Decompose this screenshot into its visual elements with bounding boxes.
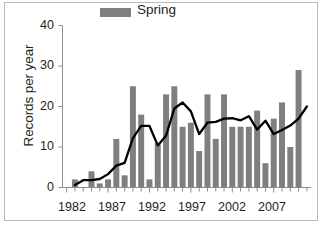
bar bbox=[238, 127, 244, 188]
bar bbox=[180, 127, 186, 188]
bar bbox=[229, 127, 235, 188]
bar bbox=[188, 123, 194, 188]
bar bbox=[155, 143, 161, 188]
bar bbox=[213, 139, 219, 188]
bars-layer bbox=[72, 70, 302, 187]
bar bbox=[105, 179, 111, 187]
bar bbox=[146, 179, 152, 187]
bar bbox=[97, 183, 103, 187]
bar bbox=[196, 151, 202, 187]
bar bbox=[113, 139, 119, 188]
bar bbox=[287, 147, 293, 188]
bar bbox=[122, 175, 128, 187]
bar bbox=[254, 111, 260, 188]
bar bbox=[204, 94, 210, 187]
bar bbox=[246, 127, 252, 188]
chart-figure: Spring Records per year 40 30 20 10 0 19… bbox=[0, 0, 323, 239]
bar bbox=[279, 102, 285, 187]
bar bbox=[296, 70, 302, 187]
bar bbox=[163, 94, 169, 187]
bar bbox=[221, 94, 227, 187]
bar bbox=[262, 163, 268, 187]
chart-plot-area bbox=[0, 0, 323, 239]
bar bbox=[171, 86, 177, 187]
